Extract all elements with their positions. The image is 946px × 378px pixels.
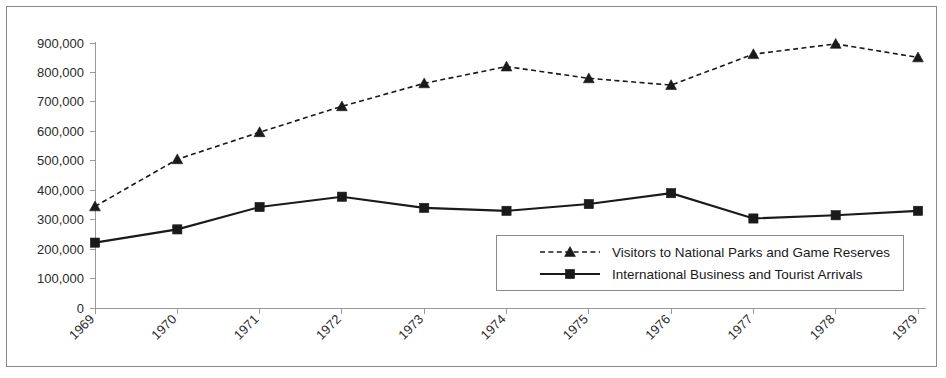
y-tick-label: 400,000: [37, 183, 84, 198]
x-tick-label: 1979: [889, 312, 920, 343]
line-chart: 900,000800,000700,000600,000500,000400,0…: [0, 0, 946, 378]
x-tick-label: 1976: [642, 312, 673, 343]
chart-figure: 900,000800,000700,000600,000500,000400,0…: [0, 0, 946, 378]
chart-legend: Visitors to National Parks and Game Rese…: [496, 235, 903, 290]
square-marker-icon: [749, 214, 758, 223]
y-tick-label: 200,000: [37, 242, 84, 257]
y-tick-label: 500,000: [37, 153, 84, 168]
square-marker-icon: [173, 225, 182, 234]
triangle-marker-icon: [748, 49, 759, 59]
y-tick-label: 100,000: [37, 271, 84, 286]
y-tick-label: 0: [77, 301, 84, 316]
square-marker-icon: [420, 203, 429, 212]
x-tick-label: 1975: [560, 312, 591, 343]
x-tick-label: 1973: [395, 312, 426, 343]
y-tick-label: 700,000: [37, 94, 84, 109]
square-marker-icon: [337, 192, 346, 201]
x-tick-label: 1970: [148, 312, 179, 343]
square-marker-icon: [913, 206, 922, 215]
y-tick-label: 900,000: [37, 36, 84, 51]
triangle-marker-icon: [501, 61, 512, 71]
x-tick-label: 1969: [66, 312, 97, 343]
square-marker-icon: [565, 269, 574, 278]
legend-label-1: Visitors to National Parks and Game Rese…: [612, 245, 890, 260]
x-tick-label: 1978: [807, 312, 838, 343]
square-marker-icon: [255, 202, 264, 211]
square-marker-icon: [584, 199, 593, 208]
triangle-marker-icon: [830, 38, 841, 48]
y-axis: 900,000800,000700,000600,000500,000400,0…: [37, 36, 95, 316]
x-tick-label: 1971: [231, 312, 262, 343]
x-tick-label: 1977: [724, 312, 755, 343]
x-axis: 1969197019711972197319741975197619771978…: [66, 308, 926, 343]
y-tick-label: 600,000: [37, 124, 84, 139]
x-tick-label: 1974: [478, 312, 509, 343]
square-marker-icon: [502, 206, 511, 215]
y-tick-label: 800,000: [37, 65, 84, 80]
legend-label-2: International Business and Tourist Arriv…: [612, 267, 863, 282]
series-layer: [90, 38, 924, 247]
square-marker-icon: [831, 211, 840, 220]
x-tick-label: 1972: [313, 312, 344, 343]
y-tick-label: 300,000: [37, 212, 84, 227]
triangle-marker-icon: [172, 154, 183, 164]
triangle-marker-icon: [90, 201, 101, 211]
square-marker-icon: [667, 189, 676, 198]
square-marker-icon: [90, 238, 99, 247]
